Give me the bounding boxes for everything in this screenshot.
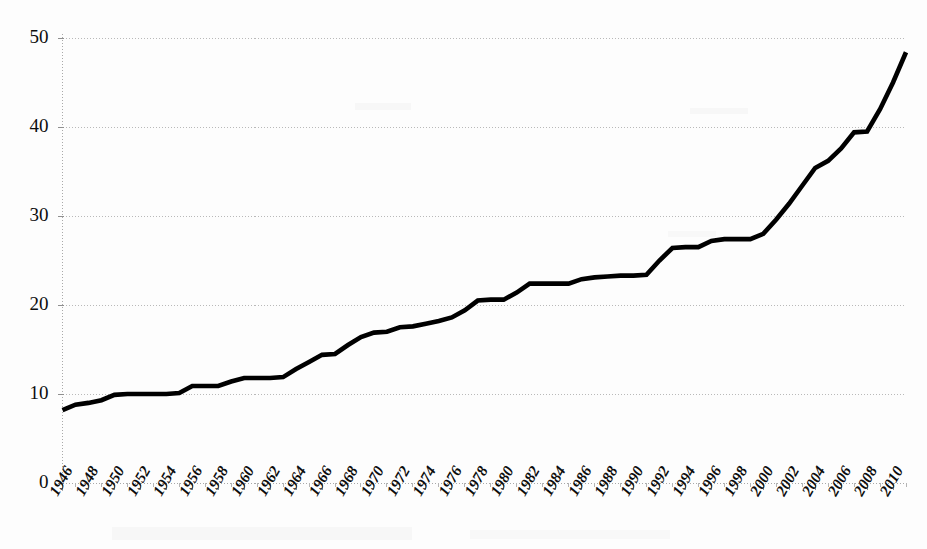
chart-canvas: 01020304050 1946194819501952195419561958… — [0, 0, 927, 549]
y-tick-label: 40 — [30, 115, 49, 136]
chart-figure: 01020304050 1946194819501952195419561958… — [0, 0, 927, 549]
y-tick-label: 30 — [30, 204, 49, 225]
y-tick-label: 10 — [30, 382, 49, 403]
y-tick-label: 50 — [30, 26, 49, 47]
y-tick-label: 20 — [30, 293, 49, 314]
